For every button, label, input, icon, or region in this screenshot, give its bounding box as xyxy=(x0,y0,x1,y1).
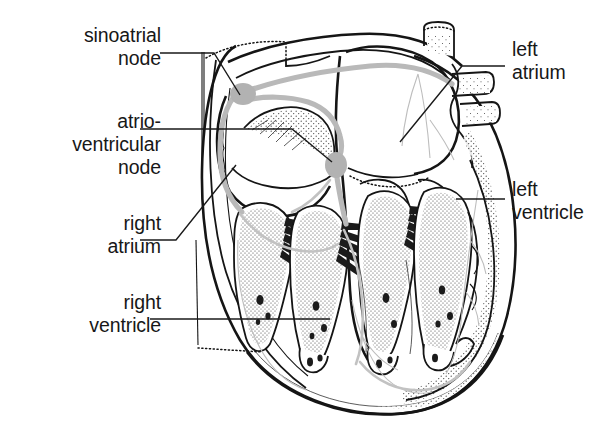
muscle-pit xyxy=(435,320,440,327)
cut-edge-left-lower xyxy=(196,240,198,345)
atrial-pathway-upper xyxy=(250,65,452,90)
atrioventricular-node-marker xyxy=(325,152,347,178)
coronary-branch-atrial xyxy=(402,74,454,160)
left-atrium-floor xyxy=(348,168,418,177)
muscle-pit xyxy=(307,358,313,367)
cut-edge-dotted-top-left xyxy=(206,42,286,60)
papillary-2-shading xyxy=(295,211,344,356)
heart-diagram-figure: sinoatrial node atrio- ventricular node … xyxy=(0,0,615,435)
pulmonary-vein-lower-shading xyxy=(466,105,496,124)
leader-sinoatrial-node xyxy=(160,53,240,95)
muscle-pit xyxy=(317,354,322,361)
muscle-pit xyxy=(313,301,320,311)
aorta-stub-shading xyxy=(426,34,452,56)
ventricles-group xyxy=(234,172,478,374)
label-atrioventricular-node: atrio- ventricular node xyxy=(28,110,161,179)
muscle-pit xyxy=(432,354,438,362)
label-sinoatrial-node: sinoatrial node xyxy=(46,24,161,70)
muscle-pit xyxy=(387,356,392,363)
muscle-pit xyxy=(256,319,260,325)
label-left-atrium: left atrium xyxy=(512,38,612,84)
muscle-pit xyxy=(439,285,445,294)
muscle-pit xyxy=(391,320,397,328)
tricuspid-valve-lower xyxy=(232,166,338,188)
label-left-ventricle: left ventricle xyxy=(512,178,615,224)
muscle-pit xyxy=(383,293,390,303)
pulmonary-vein-upper-shading xyxy=(458,75,490,94)
papillary-3-shading xyxy=(363,196,412,352)
muscle-pit xyxy=(256,295,263,305)
aorta-stub-rim xyxy=(424,27,454,31)
muscle-pit xyxy=(310,333,315,339)
label-right-atrium: right atrium xyxy=(58,212,161,258)
muscle-pit xyxy=(321,324,327,332)
muscle-pit xyxy=(447,312,453,320)
label-right-ventricle: right ventricle xyxy=(38,291,161,337)
